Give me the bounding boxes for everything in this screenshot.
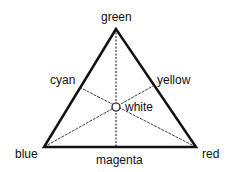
triangle-outline — [44, 29, 196, 147]
label-red: red — [202, 148, 219, 160]
white-point-icon — [112, 103, 120, 111]
label-magenta: magenta — [96, 154, 143, 166]
label-green: green — [101, 11, 132, 23]
label-yellow: yellow — [157, 74, 190, 86]
label-cyan: cyan — [50, 74, 75, 86]
label-white: white — [125, 101, 153, 113]
label-blue: blue — [15, 148, 38, 160]
red-cyan-axis — [81, 88, 196, 147]
